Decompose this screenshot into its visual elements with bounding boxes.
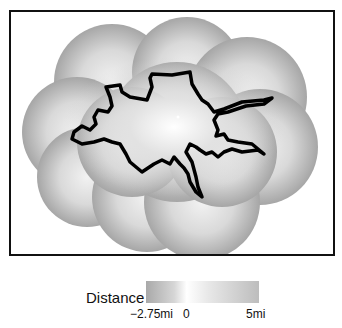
distance-field bbox=[22, 17, 318, 254]
origin-point bbox=[177, 116, 180, 119]
legend-tick-max: 5mi bbox=[246, 307, 265, 321]
legend-tick-min: −2.75mi bbox=[130, 307, 173, 321]
legend-tick-zero: 0 bbox=[183, 307, 190, 321]
legend-color-bar bbox=[146, 281, 259, 303]
distance-field-map bbox=[11, 12, 333, 254]
legend-title: Distance bbox=[86, 289, 144, 306]
map-frame bbox=[9, 10, 335, 256]
